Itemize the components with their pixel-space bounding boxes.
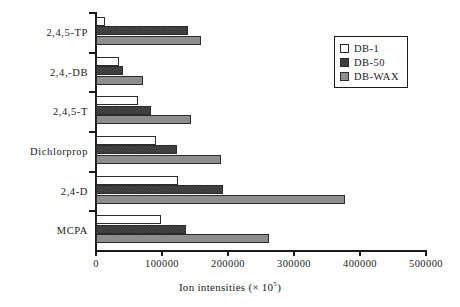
y-tick (89, 12, 95, 14)
bar-dbwax (96, 195, 345, 204)
legend-label-dbwax: DB-WAX (354, 71, 399, 82)
y-tick (89, 171, 95, 173)
x-tick (161, 250, 163, 256)
chart-legend: DB-1 DB-50 DB-WAX (334, 36, 408, 88)
x-tick (359, 250, 361, 256)
bar-db1 (96, 17, 105, 26)
bar-db50 (96, 106, 151, 115)
bar-db50 (96, 145, 177, 154)
bar-dbwax (96, 155, 221, 164)
category-label: MCPA (57, 225, 88, 236)
bar-dbwax (96, 76, 143, 85)
x-tick (227, 250, 229, 256)
bar-dbwax (96, 115, 191, 124)
bar-db50 (96, 26, 188, 35)
y-tick (89, 131, 95, 133)
x-tick (425, 250, 427, 256)
legend-item-db50[interactable]: DB-50 (340, 55, 399, 69)
legend-label-db50: DB-50 (354, 57, 385, 68)
category-label: 2,4,5-T (53, 106, 88, 117)
bar-db1 (96, 215, 161, 224)
x-tick (293, 250, 295, 256)
x-tick-label: 300000 (277, 258, 311, 269)
x-tick (95, 250, 97, 256)
y-tick (89, 52, 95, 54)
x-tick-label: 0 (93, 258, 99, 269)
bar-dbwax (96, 234, 269, 243)
category-label: 2,4,5-TP (46, 26, 88, 37)
x-tick-label: 500000 (409, 258, 443, 269)
legend-item-dbwax[interactable]: DB-WAX (340, 69, 399, 83)
x-axis-title: Ion intensities (× 105) (0, 280, 460, 293)
bar-dbwax (96, 36, 201, 45)
bar-db1 (96, 96, 138, 105)
bar-db1 (96, 57, 119, 66)
category-label: 2,4-D (61, 185, 88, 196)
x-axis-title-close: ) (277, 281, 281, 293)
x-tick-label: 400000 (343, 258, 377, 269)
bar-db50 (96, 66, 123, 75)
bar-db1 (96, 176, 178, 185)
bar-db50 (96, 225, 186, 234)
legend-item-db1[interactable]: DB-1 (340, 41, 399, 55)
x-tick-label: 200000 (211, 258, 245, 269)
legend-label-db1: DB-1 (354, 43, 379, 54)
category-label: 2,4,-DB (50, 66, 88, 77)
y-tick (89, 91, 95, 93)
dbwax-swatch-icon (340, 72, 349, 81)
x-tick-label: 100000 (145, 258, 179, 269)
y-tick (89, 210, 95, 212)
category-label: Dichlorprop (30, 145, 88, 156)
db50-swatch-icon (340, 58, 349, 67)
bar-db1 (96, 136, 156, 145)
bar-db50 (96, 185, 223, 194)
x-axis-line (95, 250, 426, 252)
x-axis-title-base: 10 (259, 281, 274, 293)
x-axis-title-text: Ion intensities ( (179, 281, 253, 293)
bar-chart: 0100000200000300000400000500000 2,4,5-TP… (0, 0, 460, 307)
db1-swatch-icon (340, 44, 349, 53)
